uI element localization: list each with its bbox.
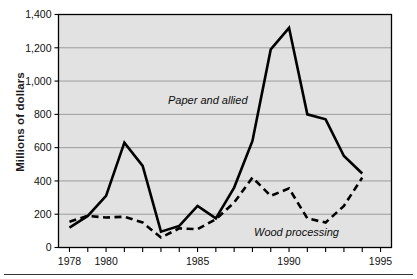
x-tick-label: 1978 bbox=[58, 255, 82, 267]
y-tick-label: 400 bbox=[34, 175, 52, 187]
chart-figure: Millions of dollars 02004006008001,0001,… bbox=[0, 0, 417, 279]
x-tick-label: 1995 bbox=[369, 255, 393, 267]
annotation-paper-and-allied: Paper and allied bbox=[168, 94, 248, 106]
y-axis-ticks: 02004006008001,0001,2001,400 bbox=[25, 8, 58, 253]
y-tick-label: 200 bbox=[34, 208, 52, 220]
x-tick-label: 1990 bbox=[277, 255, 301, 267]
y-tick-label: 800 bbox=[34, 108, 52, 120]
x-axis-ticks: 19781980198519901995 bbox=[58, 248, 393, 267]
y-tick-label: 0 bbox=[46, 241, 52, 253]
y-tick-label: 1,200 bbox=[25, 42, 51, 54]
annotation-wood-processing: Wood processing bbox=[254, 226, 340, 238]
plot-background bbox=[59, 15, 392, 248]
line-chart-canvas: 02004006008001,0001,2001,400 19781980198… bbox=[0, 0, 417, 279]
x-tick-label: 1980 bbox=[94, 255, 118, 267]
y-axis-title: Millions of dollars bbox=[14, 32, 26, 212]
x-tick-label: 1985 bbox=[186, 255, 210, 267]
y-tick-label: 1,400 bbox=[25, 8, 51, 20]
y-tick-label: 1,000 bbox=[25, 75, 51, 87]
y-tick-label: 600 bbox=[34, 141, 52, 153]
